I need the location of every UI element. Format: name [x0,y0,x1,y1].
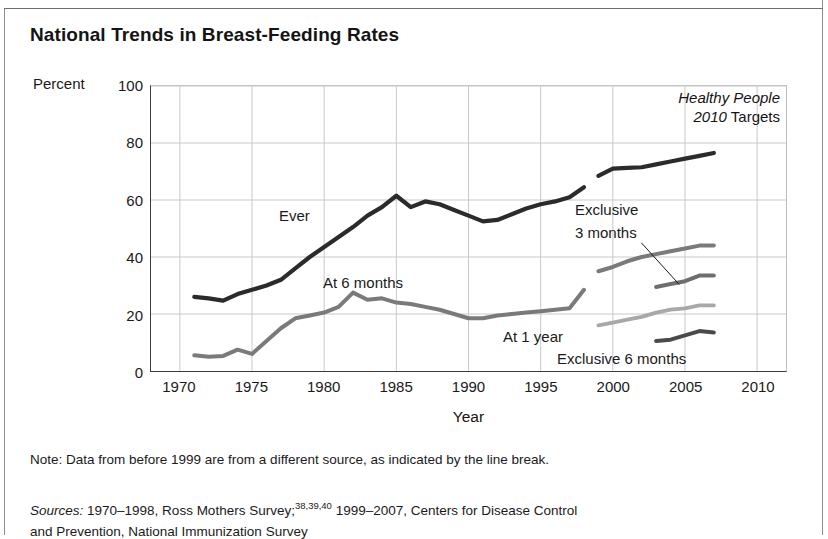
hp-caption-line2-year: 2010 [694,108,727,125]
y-axis-unit-label: Percent [33,75,85,92]
y-tick-40: 40 [126,249,143,266]
series-line-ever [598,153,713,176]
y-tick-60: 60 [126,191,143,208]
x-tick-2000: 2000 [597,378,630,395]
x-axis-tick-labels: 197019751980198519901995200020052010 [150,378,787,400]
healthy-people-targets-caption: Healthy People 2010 Targets [678,88,780,126]
chart-canvas [151,86,786,371]
series-label-at-6-months: At 6 months [323,274,403,291]
plot-area: Healthy People 2010 Targets Ever At 6 mo… [150,85,787,372]
y-tick-100: 100 [118,77,143,94]
hp-caption-line2-word: Targets [727,108,780,125]
gridlines [151,86,786,371]
sources-part1: 1970–1998, Ross Mothers Survey; [87,503,295,518]
series-label-at-1-year: At 1 year [503,328,563,345]
series-label-exclusive-3-months-1: Exclusive [575,201,638,218]
y-tick-80: 80 [126,134,143,151]
y-axis-tick-labels: 020406080100 [95,85,143,372]
series-line-at-6-months [194,290,584,357]
x-tick-2005: 2005 [669,378,702,395]
series-label-exclusive-3-months-2: 3 months [575,224,637,241]
figure-sources-line2: and Prevention, National Immunization Su… [30,524,308,539]
x-tick-1990: 1990 [452,378,485,395]
page-border-left [4,8,5,535]
hp-caption-line1: Healthy People [678,89,780,106]
series-label-exclusive-6-months: Exclusive 6 months [557,350,686,367]
chart-title: National Trends in Breast-Feeding Rates [30,24,399,46]
page-border-top [4,8,823,9]
data-series [194,153,714,357]
sources-superscript: 38,39,40 [295,500,332,511]
y-tick-0: 0 [135,364,143,381]
figure-note: Note: Data from before 1999 are from a d… [30,452,549,467]
series-label-ever: Ever [279,207,310,224]
page-border-right [822,0,823,535]
x-tick-1975: 1975 [235,378,268,395]
sources-label: Sources: [30,503,83,518]
y-tick-20: 20 [126,306,143,323]
x-tick-2010: 2010 [741,378,774,395]
series-line-at-1-year [598,305,713,325]
x-tick-1995: 1995 [524,378,557,395]
x-tick-1970: 1970 [162,378,195,395]
x-tick-1985: 1985 [379,378,412,395]
figure-sources: Sources: 1970–1998, Ross Mothers Survey;… [30,500,577,518]
x-tick-1980: 1980 [307,378,340,395]
x-axis-title: Year [150,408,787,426]
sources-part2: 1999–2007, Centers for Disease Control [332,503,577,518]
